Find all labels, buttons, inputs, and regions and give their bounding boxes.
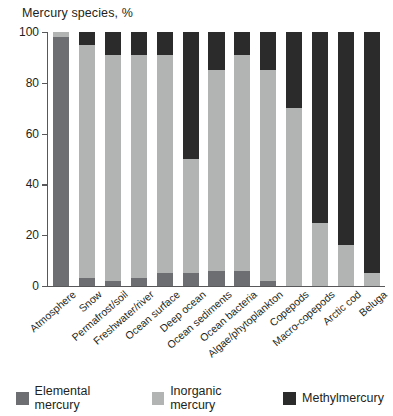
x-tick-label: Beluga — [356, 288, 389, 319]
x-tick-label: Atmosphere — [27, 288, 78, 334]
bar-beluga — [364, 32, 380, 286]
legend-label: Methylmercury — [302, 391, 384, 405]
legend-item: Elemental mercury — [16, 384, 136, 412]
x-axis-labels: AtmosphereSnowPermafrost/soilFreshwater/… — [48, 288, 393, 378]
bar-ocean-bacteria — [234, 32, 250, 286]
bar-segment-methylmercury — [183, 32, 199, 159]
bar-segment-elemental-mercury — [208, 271, 224, 286]
bar-segment-methylmercury — [79, 32, 95, 45]
bar-segment-methylmercury — [312, 32, 328, 223]
legend-swatch — [152, 392, 165, 405]
bar-segment-inorganic-mercury — [105, 55, 121, 281]
bar-segment-methylmercury — [157, 32, 173, 55]
bar-arctic-cod — [338, 32, 354, 286]
bar-freshwater-river — [131, 32, 147, 286]
bar-segment-methylmercury — [286, 32, 302, 108]
bar-segment-methylmercury — [364, 32, 380, 273]
bar-segment-methylmercury — [105, 32, 121, 55]
plot-area: 020406080100 — [48, 32, 385, 286]
bar-segment-methylmercury — [208, 32, 224, 70]
bar-segment-elemental-mercury — [234, 271, 250, 286]
bar-segment-elemental-mercury — [105, 281, 121, 286]
bar-segment-inorganic-mercury — [286, 108, 302, 286]
bar-segment-elemental-mercury — [260, 281, 276, 286]
stacked-bar-chart: Mercury species, % 020406080100 Atmosphe… — [0, 0, 393, 416]
bar-segment-elemental-mercury — [79, 278, 95, 286]
legend-swatch — [283, 392, 296, 405]
y-tick-label: 100 — [19, 25, 39, 39]
y-tick-label: 0 — [32, 279, 39, 293]
legend-label: Elemental mercury — [35, 384, 136, 412]
bar-copepods — [286, 32, 302, 286]
chart-title: Mercury species, % — [22, 6, 133, 20]
bar-deep-ocean — [183, 32, 199, 286]
bar-segment-elemental-mercury — [131, 278, 147, 286]
bar-segment-inorganic-mercury — [338, 245, 354, 286]
bar-segment-inorganic-mercury — [364, 273, 380, 286]
bar-segment-inorganic-mercury — [260, 70, 276, 281]
y-tick-label: 80 — [26, 76, 39, 90]
bar-segment-inorganic-mercury — [79, 45, 95, 279]
legend-item: Methylmercury — [283, 391, 384, 405]
bar-segment-inorganic-mercury — [131, 55, 147, 279]
bar-segment-inorganic-mercury — [234, 55, 250, 271]
bar-segment-elemental-mercury — [53, 37, 69, 286]
bar-snow — [79, 32, 95, 286]
bar-segment-methylmercury — [338, 32, 354, 245]
bar-segment-methylmercury — [234, 32, 250, 55]
bar-segment-elemental-mercury — [157, 273, 173, 286]
y-tick-label: 60 — [26, 127, 39, 141]
bar-segment-methylmercury — [131, 32, 147, 55]
bar-ocean-surface — [157, 32, 173, 286]
y-tick-label: 20 — [26, 228, 39, 242]
bar-segment-inorganic-mercury — [183, 159, 199, 273]
legend-item: Inorganic mercury — [152, 384, 268, 412]
bar-ocean-sediments — [208, 32, 224, 286]
bar-segment-inorganic-mercury — [312, 223, 328, 287]
legend-swatch — [16, 392, 29, 405]
bar-atmosphere — [53, 32, 69, 286]
bar-segment-elemental-mercury — [183, 273, 199, 286]
bar-macro-copepods — [312, 32, 328, 286]
chart-legend: Elemental mercuryInorganic mercuryMethyl… — [16, 384, 393, 412]
bar-segment-methylmercury — [260, 32, 276, 70]
legend-label: Inorganic mercury — [170, 384, 267, 412]
bar-segment-inorganic-mercury — [208, 70, 224, 271]
bar-group — [48, 32, 385, 286]
bar-segment-inorganic-mercury — [157, 55, 173, 273]
bar-permafrost-soil — [105, 32, 121, 286]
bar-algae-phytoplankton — [260, 32, 276, 286]
y-tick-label: 40 — [26, 177, 39, 191]
